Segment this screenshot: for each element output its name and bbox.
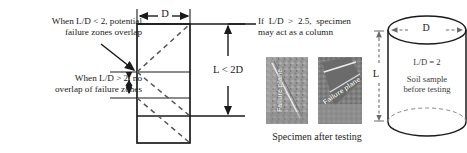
specimen-photo-1: Failure plane <box>266 57 308 124</box>
overlap-note-leader <box>101 44 134 70</box>
specimen-photo-2: Failure plane <box>318 57 362 124</box>
no-overlap-annotation: When L/D > 2, no overlap of failure zone… <box>2 73 142 95</box>
overlap-annotation: When L/D < 2, potential failure zones ov… <box>14 16 142 38</box>
failure-plane-label-1: Failure plane <box>276 69 283 112</box>
box-length-label: L < 2D <box>204 64 252 76</box>
unconfined-compression-figure: When L/D < 2, potential failure zones ov… <box>0 0 467 153</box>
cylinder-diameter-label: D <box>417 22 435 34</box>
specimen-rectangle <box>137 24 190 143</box>
box-diameter-label: D <box>158 8 172 20</box>
photo-caption: Specimen after testing <box>262 131 372 143</box>
failure-plane-lines <box>137 24 190 143</box>
cylinder-length-label: L <box>370 68 382 80</box>
failure-plane-label-2: Failure plane <box>322 76 362 106</box>
cylinder-description: Soil sample before testing <box>392 74 462 94</box>
column-annotation: If L/D > 2.5, specimen may act as a colu… <box>258 16 368 38</box>
cylinder-ratio-label: L/D = 2 <box>397 57 457 67</box>
